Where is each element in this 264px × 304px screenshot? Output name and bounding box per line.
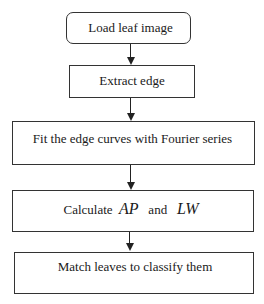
arrow-head-1 [127,57,135,65]
step-label: Extract edge [70,73,194,89]
arrow-head-2 [127,113,135,121]
arrow-2 [130,98,131,113]
step-calculate-ap-lw: Calculate AP and LW [12,190,254,232]
arrow-1 [130,44,131,57]
var-ap: AP [119,200,139,217]
step-match-leaves: Match leaves to classify them [14,252,254,294]
and-text: and [148,202,167,217]
calculate-text: Calculate [63,202,112,217]
arrow-head-3 [127,182,135,190]
step-extract-edge: Extract edge [69,65,195,98]
arrow-3 [130,165,131,183]
step-label: Load leaf image [71,20,190,36]
step-label: Fit the edge curves with Fourier series [11,131,254,147]
step-label: Calculate AP and LW [9,200,253,218]
arrow-head-4 [126,243,134,251]
step-fit-fourier: Fit the edge curves with Fourier series [12,121,255,165]
var-lw: LW [177,200,199,217]
step-label: Match leaves to classify them [17,259,253,275]
step-load-leaf-image: Load leaf image [66,12,191,44]
